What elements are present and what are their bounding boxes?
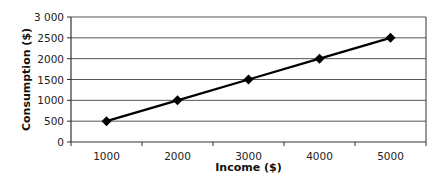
x-tick-label: 1000 bbox=[93, 150, 120, 162]
y-tick-label: 500 bbox=[44, 115, 64, 127]
y-tick-label: 2000 bbox=[37, 53, 64, 65]
consumption-income-chart: 050010001500200025003 000100020003000400… bbox=[0, 0, 446, 180]
y-tick-label: 1000 bbox=[37, 94, 64, 106]
data-point-diamond bbox=[244, 75, 254, 85]
data-point-diamond bbox=[102, 116, 112, 126]
x-axis-label: Income ($) bbox=[215, 161, 281, 174]
data-point-diamond bbox=[386, 33, 396, 43]
y-axis-label: Consumption ($) bbox=[20, 28, 33, 131]
data-point-diamond bbox=[315, 54, 325, 64]
x-tick-label: 2000 bbox=[164, 150, 191, 162]
x-tick-label: 4000 bbox=[306, 150, 333, 162]
x-tick-label: 5000 bbox=[377, 150, 404, 162]
data-point-diamond bbox=[173, 95, 183, 105]
y-tick-label: 2500 bbox=[37, 32, 64, 44]
y-tick-label: 1500 bbox=[37, 74, 64, 86]
y-tick-label: 3 000 bbox=[34, 11, 64, 23]
y-tick-label: 0 bbox=[57, 136, 64, 148]
